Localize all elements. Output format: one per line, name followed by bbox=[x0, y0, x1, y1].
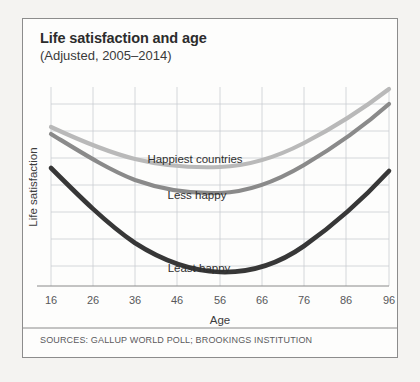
x-tick-label: 66 bbox=[256, 294, 268, 306]
series-label-less-happy: Less happy bbox=[168, 189, 227, 201]
x-tick-label: 26 bbox=[87, 294, 99, 306]
series-label-happiest-countries: Happiest countries bbox=[147, 153, 242, 165]
x-tick-label: 56 bbox=[214, 294, 226, 306]
source-note: SOURCES: GALLUP WORLD POLL; BROOKINGS IN… bbox=[40, 335, 312, 345]
x-axis-tick-labels: 16 26 36 46 56 66 76 86 96 bbox=[45, 294, 395, 306]
x-tick-label: 86 bbox=[340, 294, 352, 306]
life-satisfaction-line-chart: Happiest countries Less happy Least happ… bbox=[23, 19, 398, 358]
series-label-least-happy: Least happy bbox=[168, 262, 231, 274]
x-tick-label: 36 bbox=[129, 294, 141, 306]
chart-figure: Life satisfaction and age (Adjusted, 200… bbox=[22, 18, 398, 358]
x-tick-label: 96 bbox=[383, 294, 395, 306]
x-tick-label: 76 bbox=[298, 294, 310, 306]
y-axis-title: Life satisfaction bbox=[27, 147, 39, 226]
vertical-gridlines bbox=[51, 87, 389, 286]
x-tick-label: 46 bbox=[171, 294, 183, 306]
x-axis-title: Age bbox=[210, 314, 230, 326]
x-tick-label: 16 bbox=[45, 294, 57, 306]
